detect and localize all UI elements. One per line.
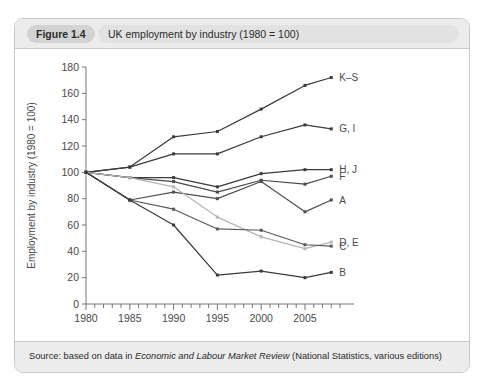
series-k-s: K–S <box>85 72 359 174</box>
data-point <box>330 168 333 171</box>
figure-header: Figure 1.4 UK employment by industry (19… <box>15 19 469 49</box>
data-point <box>330 175 333 178</box>
data-point <box>330 76 333 79</box>
data-point <box>330 127 333 130</box>
series-line <box>86 170 331 187</box>
series-label: A <box>339 195 346 206</box>
series-f: F <box>85 171 346 194</box>
series-label: C <box>339 241 346 252</box>
data-point <box>172 185 175 188</box>
y-tick-label: 160 <box>61 87 79 99</box>
y-tick-label: 140 <box>61 113 79 125</box>
y-tick-label: 120 <box>61 140 79 152</box>
data-point <box>172 176 175 179</box>
y-tick-label: 40 <box>67 245 79 257</box>
chart-plot-area: 0204060801001201401601801980198519901995… <box>15 49 469 342</box>
data-point <box>172 208 175 211</box>
data-point <box>303 210 306 213</box>
data-point <box>216 227 219 230</box>
figure-card: Figure 1.4 UK employment by industry (19… <box>14 18 470 373</box>
data-point <box>260 108 263 111</box>
data-point <box>330 245 333 248</box>
data-point <box>330 241 333 244</box>
data-point <box>172 135 175 138</box>
data-point <box>172 180 175 183</box>
data-point <box>303 84 306 87</box>
figure-number-badge: Figure 1.4 <box>27 25 95 43</box>
y-tick-label: 80 <box>67 192 79 204</box>
employment-line-chart: 0204060801001201401601801980198519901995… <box>15 49 470 342</box>
data-point <box>216 185 219 188</box>
y-tick-label: 100 <box>61 166 79 178</box>
data-point <box>260 270 263 273</box>
data-point <box>172 224 175 227</box>
data-point <box>85 171 88 174</box>
series-line <box>86 172 331 192</box>
y-axis-title: Employment by industry (1980 = 100) <box>26 102 37 268</box>
series-g-i: G, I <box>85 123 356 173</box>
series-label: G, I <box>339 123 355 134</box>
source-publication: Economic and Labour Market Review <box>135 351 290 361</box>
source-suffix: (National Statistics, various editions) <box>289 351 441 361</box>
data-point <box>172 191 175 194</box>
data-point <box>260 235 263 238</box>
data-point <box>303 183 306 186</box>
x-tick-label: 1980 <box>74 312 98 324</box>
data-point <box>216 274 219 277</box>
source-prefix: Source: based on data in <box>29 351 135 361</box>
y-tick-label: 180 <box>61 61 79 73</box>
y-tick-label: 0 <box>73 298 79 310</box>
series-d-e: D, E <box>85 171 360 250</box>
series-label: B <box>339 267 346 278</box>
data-point <box>303 168 306 171</box>
data-point <box>260 172 263 175</box>
x-tick-label: 1995 <box>206 312 230 324</box>
data-point <box>303 123 306 126</box>
figure-footer: Source: based on data in Economic and La… <box>15 341 469 372</box>
data-point <box>216 152 219 155</box>
x-tick-label: 2000 <box>249 312 273 324</box>
data-point <box>303 247 306 250</box>
data-point <box>172 152 175 155</box>
data-point <box>128 166 131 169</box>
data-point <box>260 180 263 183</box>
data-point <box>303 243 306 246</box>
data-point <box>216 197 219 200</box>
series-line <box>86 78 331 173</box>
data-point <box>303 276 306 279</box>
data-point <box>260 229 263 232</box>
series-b: B <box>85 171 347 279</box>
y-tick-label: 60 <box>67 219 79 231</box>
x-tick-label: 2005 <box>293 312 317 324</box>
data-point <box>260 135 263 138</box>
series-line <box>86 172 331 211</box>
data-point <box>128 198 131 201</box>
data-point <box>216 191 219 194</box>
data-point <box>128 176 131 179</box>
series-label: K–S <box>339 72 358 83</box>
x-tick-label: 1990 <box>162 312 186 324</box>
y-tick-label: 20 <box>67 271 79 283</box>
data-point <box>216 216 219 219</box>
figure-caption: UK employment by industry (1980 = 100) <box>98 25 459 43</box>
data-point <box>216 130 219 133</box>
data-point <box>330 198 333 201</box>
data-point <box>330 271 333 274</box>
source-note: Source: based on data in Economic and La… <box>29 351 459 361</box>
series-label: F <box>339 171 345 182</box>
x-tick-label: 1985 <box>118 312 142 324</box>
